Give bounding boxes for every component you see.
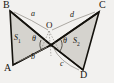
- region-label-s2-sub: 2: [77, 41, 80, 47]
- arc-label-c: c: [60, 60, 64, 68]
- vertex-label-d: D: [80, 70, 87, 80]
- vertex-label-o: O: [46, 21, 53, 30]
- arc-label-b: b: [31, 53, 35, 61]
- vertex-label-a: A: [4, 63, 11, 73]
- arc-label-a: a: [31, 10, 35, 18]
- angle-label-theta-left: θ: [32, 35, 36, 43]
- region-label-s1-sub: 1: [18, 38, 21, 44]
- intersection-node-dot: [50, 44, 53, 47]
- region-label-s1: S1: [14, 34, 21, 44]
- geometry-figure: B A C D O a b c d S1 S2 θ θ: [0, 0, 114, 83]
- angle-label-theta-right: θ: [63, 37, 67, 45]
- vertex-label-c: C: [99, 0, 106, 10]
- arc-label-d: d: [70, 11, 74, 19]
- region-label-s2: S2: [73, 37, 80, 47]
- vertex-label-b: B: [3, 0, 10, 10]
